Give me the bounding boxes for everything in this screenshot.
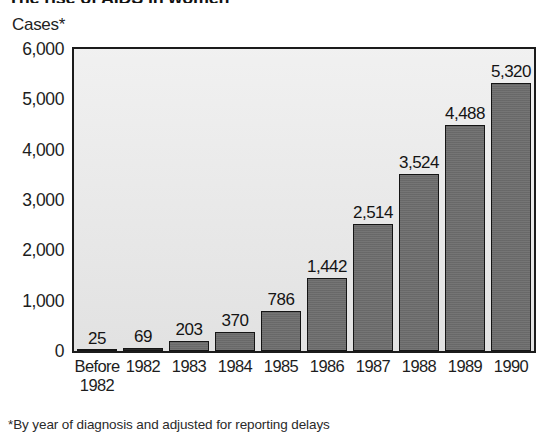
x-axis-tick: 1988 [396, 357, 442, 395]
x-axis-tick-label: Before [74, 357, 120, 376]
bar [307, 278, 347, 351]
bar [77, 349, 117, 351]
bar [261, 311, 301, 351]
bar-value-label: 2,514 [353, 204, 393, 221]
x-axis-tick-label: 1983 [166, 357, 212, 376]
x-axis-tick: Before1982 [74, 357, 120, 395]
x-axis-tick: 1984 [212, 357, 258, 395]
x-axis-tick: 1990 [488, 357, 534, 395]
bar-group: 203 [166, 49, 212, 351]
bar-group: 25 [74, 49, 120, 351]
y-axis-tick-label: 6,000 [22, 39, 64, 60]
bar [491, 83, 531, 351]
x-axis-tick-label: 1987 [350, 357, 396, 376]
bar-value-label: 3,524 [399, 154, 439, 171]
x-axis-tick-label: 1990 [488, 357, 534, 376]
bar-value-label: 25 [88, 330, 106, 347]
bar-value-label: 786 [268, 291, 295, 308]
bar [215, 332, 255, 351]
x-axis-tick: 1985 [258, 357, 304, 395]
x-axis-tick-label: 1986 [304, 357, 350, 376]
x-axis-tick-label: 1982 [120, 357, 166, 376]
bar-value-label: 69 [134, 328, 152, 345]
bar-value-label: 203 [176, 321, 203, 338]
page-title: The rise of AIDS in women [8, 0, 229, 3]
bar-group: 5,320 [488, 49, 534, 351]
footnote: *By year of diagnosis and adjusted for r… [8, 417, 330, 432]
bar [353, 224, 393, 351]
bar-group: 370 [212, 49, 258, 351]
y-axis-unit-caption: Cases* [12, 15, 65, 35]
bar-group: 2,514 [350, 49, 396, 351]
y-axis-tick-label: 0 [55, 341, 64, 362]
y-axis-tick-label: 5,000 [22, 89, 64, 110]
x-axis-tick-label: 1989 [442, 357, 488, 376]
y-axis: 6,0005,0004,0003,0002,0001,0000 [0, 47, 68, 353]
y-axis-tick-label: 3,000 [22, 190, 64, 211]
y-axis-tick-label: 2,000 [22, 240, 64, 261]
x-axis-tick: 1989 [442, 357, 488, 395]
x-axis-tick-label: 1985 [258, 357, 304, 376]
bar-value-label: 1,442 [307, 258, 347, 275]
x-axis: Before1982198219831984198519861987198819… [74, 357, 534, 395]
bar [399, 174, 439, 351]
bar-group: 4,488 [442, 49, 488, 351]
bar-group: 786 [258, 49, 304, 351]
x-axis-tick-label: 1988 [396, 357, 442, 376]
bar-group: 69 [120, 49, 166, 351]
bar-group: 1,442 [304, 49, 350, 351]
bar-value-label: 5,320 [491, 63, 531, 80]
bar [445, 125, 485, 351]
bar-value-label: 4,488 [445, 105, 485, 122]
bar [169, 341, 209, 351]
y-axis-tick-label: 1,000 [22, 290, 64, 311]
x-axis-tick: 1982 [120, 357, 166, 395]
y-axis-tick-label: 4,000 [22, 139, 64, 160]
bar-value-label: 370 [222, 312, 249, 329]
x-axis-tick-label-line2: 1982 [74, 376, 120, 395]
bar-series: 25692033707861,4422,5143,5244,4885,320 [74, 49, 534, 351]
bar-group: 3,524 [396, 49, 442, 351]
x-axis-tick: 1987 [350, 357, 396, 395]
x-axis-tick: 1986 [304, 357, 350, 395]
x-axis-tick: 1983 [166, 357, 212, 395]
bar [123, 348, 163, 351]
x-axis-tick-label: 1984 [212, 357, 258, 376]
